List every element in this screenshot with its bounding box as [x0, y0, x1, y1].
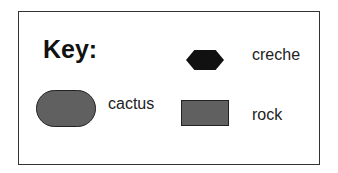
rock-rectangle-icon — [181, 100, 229, 126]
rock-label: rock — [252, 106, 282, 124]
legend-title: Key: — [43, 35, 97, 64]
creche-label: creche — [252, 46, 300, 64]
cactus-label: cactus — [108, 95, 154, 113]
cactus-pill-icon — [36, 90, 96, 127]
